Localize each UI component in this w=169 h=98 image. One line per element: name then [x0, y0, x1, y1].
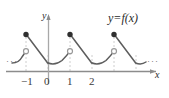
closed-point-1: [67, 32, 72, 37]
x-tick-label-0: 0: [44, 76, 50, 87]
open-point-1: [68, 49, 73, 54]
open-point-minus1: [24, 49, 29, 54]
x-tick-label-1: 1: [67, 76, 73, 87]
ellipsis-left: ···: [6, 57, 18, 66]
x-tick-label-2: 2: [89, 76, 95, 87]
curve-drop-3: [115, 35, 136, 63]
y-axis-arrowhead: [46, 14, 50, 20]
x-tick-label-minus1: −1: [21, 76, 33, 87]
ellipsis-right: ···: [147, 57, 159, 66]
x-axis: [6, 69, 156, 73]
closed-point-minus1: [23, 32, 28, 37]
x-axis-label: x: [155, 70, 159, 80]
y-axis-label: y: [42, 11, 46, 21]
function-label: y=f(x): [108, 12, 138, 24]
curve-drop-2: [71, 35, 92, 63]
open-point-3: [112, 49, 117, 54]
y-axis: [46, 14, 50, 84]
curve-rise-1: [48, 52, 70, 64]
closed-endpoints: [23, 32, 116, 37]
function-curve: [12, 35, 146, 64]
grid-lines: [26, 33, 136, 72]
closed-point-3: [111, 32, 116, 37]
curve-rise-2: [92, 52, 114, 64]
function-graph-figure: ··· ··· y x y=f(x) −1 0 1 2: [0, 0, 169, 98]
curve-drop-1: [27, 35, 48, 63]
curve-rise-tail-right: [136, 62, 147, 64]
